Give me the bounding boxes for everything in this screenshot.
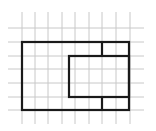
grid-figure-diagram bbox=[0, 0, 156, 131]
background-grid bbox=[8, 12, 144, 124]
inner-rectangle bbox=[69, 56, 129, 97]
